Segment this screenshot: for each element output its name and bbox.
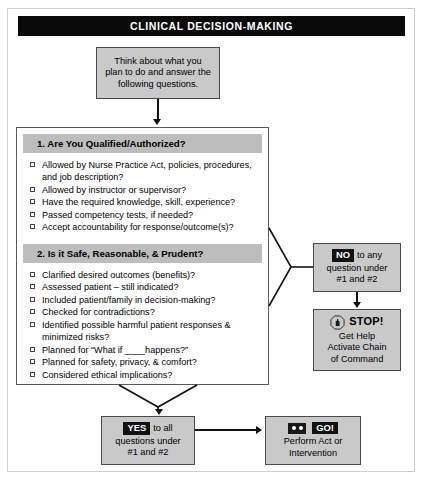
- connector-yes-arrow-icon: [155, 409, 163, 415]
- no-line-1-rest: to any: [357, 250, 382, 262]
- intro-node: Think about what you plan to do and answ…: [96, 47, 220, 99]
- questions-panel: 1. Are You Qualified/Authorized? Allowed…: [16, 127, 269, 385]
- connector-panel-to-yes: [119, 385, 199, 411]
- stop-node: STOP! Get Help Activate Chain of Command: [313, 309, 401, 371]
- checkbox-icon[interactable]: [30, 187, 35, 192]
- list-item-label: Checked for contradictions?: [42, 307, 155, 317]
- checkbox-icon[interactable]: [30, 359, 35, 364]
- list-item-label: Included patient/family in decision-maki…: [42, 295, 215, 305]
- stop-line-4: of Command: [331, 354, 384, 366]
- list-item[interactable]: Included patient/family in decision-maki…: [30, 294, 261, 306]
- list-item-label: Clarified desired outcomes (benefits)?: [42, 270, 195, 280]
- checkbox-icon[interactable]: [30, 347, 35, 352]
- list-item[interactable]: Identified possible harmful patient resp…: [30, 319, 261, 343]
- go-line-3: Intervention: [289, 448, 337, 460]
- list-item-label: Accept accountability for response/outco…: [42, 222, 234, 232]
- list-item[interactable]: Allowed by Nurse Practice Act, policies,…: [30, 159, 261, 183]
- connector-go-arrow-icon: [256, 426, 262, 434]
- checkbox-icon[interactable]: [30, 309, 35, 314]
- list-item[interactable]: Checked for contradictions?: [30, 306, 261, 318]
- go-chip: GO!: [312, 422, 338, 435]
- checkbox-icon[interactable]: [30, 322, 35, 327]
- yes-line-3: #1 and #2: [128, 447, 169, 459]
- connector-intro-arrow-icon: [153, 119, 161, 125]
- checkbox-icon[interactable]: [30, 284, 35, 289]
- connector-no-arrow-icon: [353, 302, 361, 308]
- intro-line-2: plan to do and answer the: [105, 67, 211, 79]
- list-item[interactable]: Allowed by instructor or supervisor?: [30, 184, 261, 196]
- checkbox-icon[interactable]: [30, 199, 35, 204]
- checkbox-icon[interactable]: [30, 297, 35, 302]
- checkbox-icon[interactable]: [30, 272, 35, 277]
- section-1-checklist: Allowed by Nurse Practice Act, policies,…: [22, 159, 263, 234]
- list-item[interactable]: Assessed patient – still indicated?: [30, 281, 261, 293]
- list-item[interactable]: Accept accountability for response/outco…: [30, 221, 261, 233]
- no-line-3: #1 and #2: [337, 274, 378, 286]
- list-item[interactable]: Considered ethical implications?: [30, 369, 261, 381]
- yes-branch-node: YES to all questions under #1 and #2: [101, 416, 195, 465]
- go-node: GO! Perform Act or Intervention: [265, 416, 361, 465]
- stop-line-2: Get Help: [339, 331, 375, 343]
- yes-chip: YES: [123, 422, 150, 435]
- section-2-checklist: Clarified desired outcomes (benefits)? A…: [22, 269, 263, 381]
- go-line-2: Perform Act or: [284, 436, 343, 448]
- section-1-heading: 1. Are You Qualified/Authorized?: [23, 134, 262, 153]
- no-branch-node: NO to any question under #1 and #2: [313, 243, 401, 292]
- no-chip: NO: [332, 249, 354, 262]
- yes-line-2: questions under: [115, 436, 180, 448]
- list-item-label: Allowed by Nurse Practice Act, policies,…: [42, 160, 252, 182]
- page-title: CLINICAL DECISION-MAKING: [18, 16, 405, 36]
- connector-intro-to-panel: [157, 99, 159, 120]
- yes-line-1-rest: to all: [153, 423, 172, 435]
- stop-word: STOP!: [349, 315, 383, 329]
- stop-hand-octagon-icon: [330, 315, 345, 330]
- list-item-label: Passed competency tests, if needed?: [42, 210, 193, 220]
- traffic-face-icon: [288, 423, 306, 434]
- list-item-label: Assessed patient – still indicated?: [42, 282, 179, 292]
- connector-panel-to-no: [269, 228, 315, 308]
- flowchart-page: CLINICAL DECISION-MAKING Think about wha…: [0, 0, 423, 481]
- checkbox-icon[interactable]: [30, 212, 35, 217]
- list-item-label: Allowed by instructor or supervisor?: [42, 185, 186, 195]
- connector-yes-to-go: [195, 429, 257, 431]
- checkbox-icon[interactable]: [30, 372, 35, 377]
- list-item[interactable]: Passed competency tests, if needed?: [30, 209, 261, 221]
- list-item-label: Have the required knowledge, skill, expe…: [42, 197, 235, 207]
- checkbox-icon[interactable]: [30, 224, 35, 229]
- list-item-label: Identified possible harmful patient resp…: [42, 320, 231, 342]
- list-item[interactable]: Have the required knowledge, skill, expe…: [30, 196, 261, 208]
- list-item-label: Planned for “What if ____happens?”: [42, 345, 188, 355]
- checkbox-icon[interactable]: [30, 162, 35, 167]
- section-2-heading: 2. Is it Safe, Reasonable, & Prudent?: [23, 244, 262, 263]
- list-item[interactable]: Planned for “What if ____happens?”: [30, 344, 261, 356]
- intro-line-1: Think about what you: [105, 56, 211, 68]
- stop-line-3: Activate Chain: [327, 342, 386, 354]
- intro-line-3: following questions.: [105, 79, 211, 91]
- no-line-2: question under: [327, 263, 388, 275]
- list-item[interactable]: Clarified desired outcomes (benefits)?: [30, 269, 261, 281]
- list-item[interactable]: Planned for safety, privacy, & comfort?: [30, 356, 261, 368]
- list-item-label: Considered ethical implications?: [42, 370, 172, 380]
- list-item-label: Planned for safety, privacy, & comfort?: [42, 357, 197, 367]
